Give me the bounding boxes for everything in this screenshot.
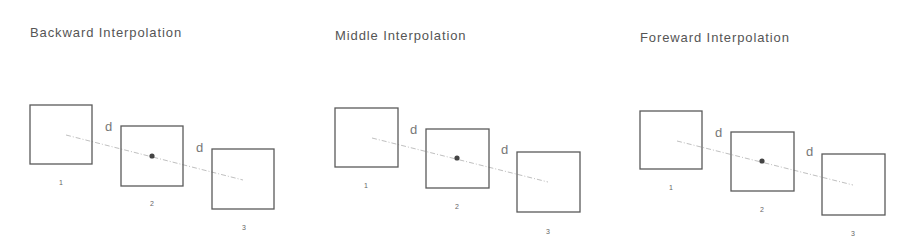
distance-label: d [105,119,112,134]
panel-title: Backward Interpolation [30,25,182,40]
frame-3-label: 3 [242,224,246,231]
panel-title: Middle Interpolation [335,28,466,43]
frame-1-box [335,108,398,167]
frame-2-label: 2 [150,200,154,207]
panel-title: Foreward Interpolation [640,30,790,45]
interpolated-point-dot [759,158,764,163]
frame-1-box [640,111,702,169]
frame-2-label: 2 [455,203,459,210]
motion-track-line [677,141,853,185]
panel-foreward-interpolation: Foreward Interpolation 1 2 3 d d [640,30,885,237]
frame-3-label: 3 [851,230,855,237]
panel-middle-interpolation: Middle Interpolation 1 2 3 d d [335,28,580,235]
frame-1-label: 1 [59,179,63,186]
distance-label: d [806,144,813,159]
interpolation-diagram: Backward Interpolation 1 2 3 d d Middle … [0,0,914,247]
frame-1-label: 1 [364,182,368,189]
distance-label: d [196,140,203,155]
distance-label: d [501,142,508,157]
distance-label: d [715,125,722,140]
frame-3-label: 3 [546,228,550,235]
frame-1-box [30,105,92,164]
frame-2-label: 2 [760,206,764,213]
distance-label: d [410,122,417,137]
interpolated-point-dot [454,155,459,160]
interpolated-point-dot [149,153,154,158]
frame-3-box [822,154,885,215]
frame-3-box [517,152,580,212]
frame-3-box [212,149,274,209]
frame-1-label: 1 [669,184,673,191]
panel-backward-interpolation: Backward Interpolation 1 2 3 d d [30,25,274,231]
